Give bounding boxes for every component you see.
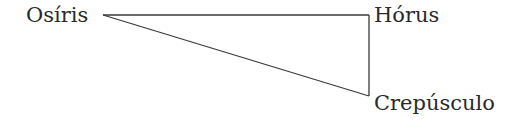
node-crepusculo: Crepúsculo — [374, 93, 495, 114]
node-horus: Hórus — [374, 5, 439, 26]
node-osiris: Osíris — [26, 5, 88, 26]
edge-osiris-crepusculo — [103, 15, 369, 96]
